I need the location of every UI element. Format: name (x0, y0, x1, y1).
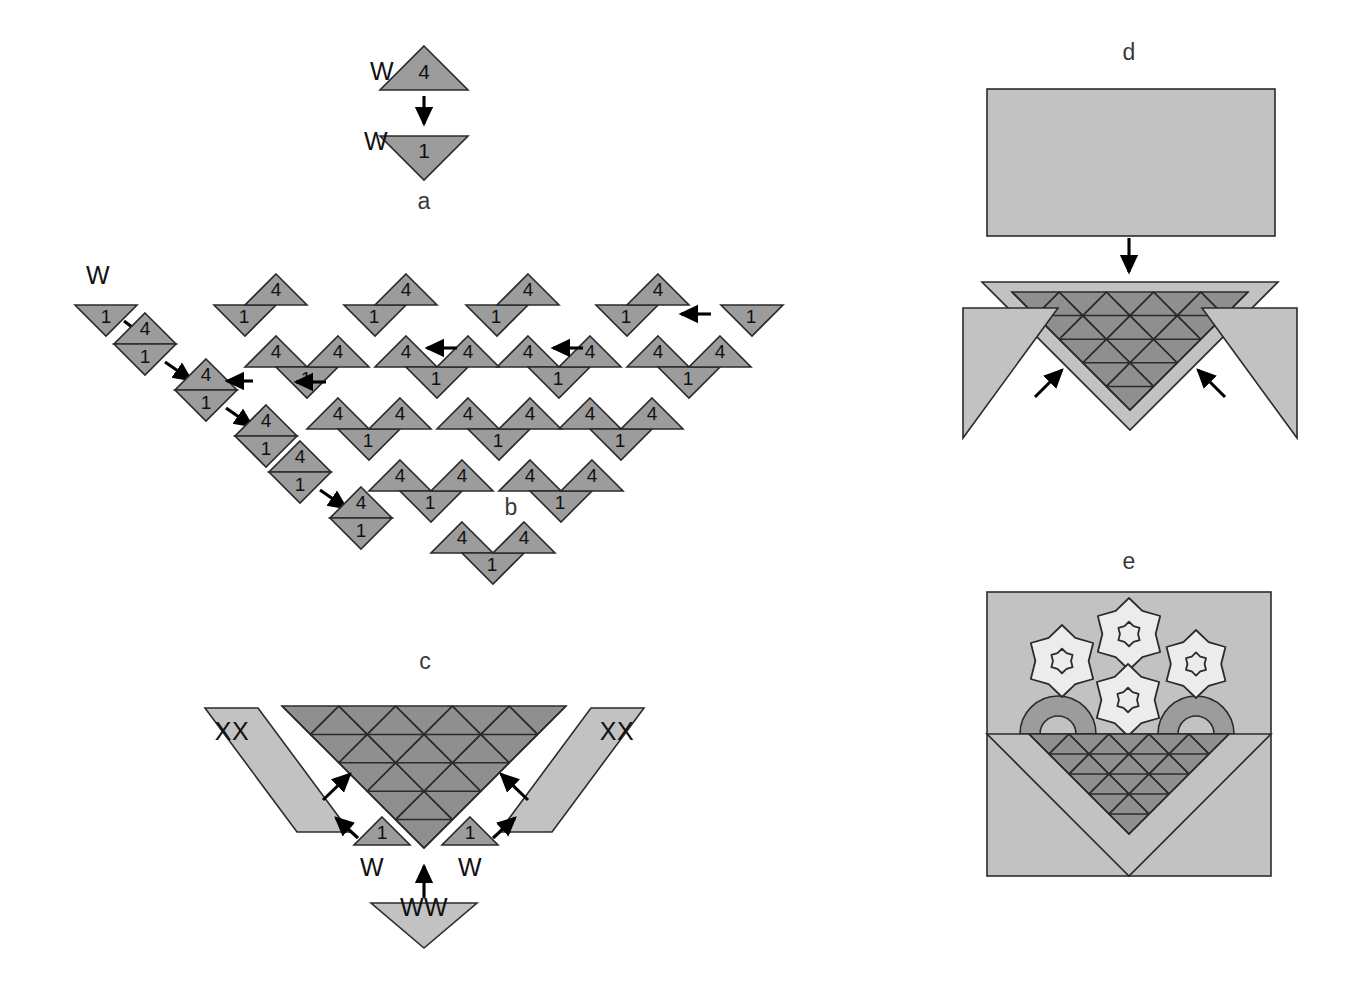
panel-b-strip-mid-piece-4-label: 4 (647, 403, 658, 424)
panel-b-strip-mid-piece-4-label: 4 (457, 465, 468, 486)
panel-b-unit-piece-1-label: 1 (140, 346, 151, 367)
panel-b-strip-piece-4-label: 4 (525, 465, 536, 486)
panel-d-arrow-inward (1198, 370, 1225, 397)
panel-b-strip-piece-1-label: 1 (493, 430, 504, 451)
panel-b-seed-piece-label: 1 (101, 306, 112, 327)
panel-b-strip-piece-4-label: 4 (333, 403, 344, 424)
panel-b-unit-piece-4-label: 4 (201, 364, 212, 385)
panel-b-unit-piece-4-label: 4 (295, 446, 306, 467)
panel-b-strip-piece-1-label: 1 (487, 554, 498, 575)
panel-d-arrow-inward (1035, 370, 1062, 397)
panel-b-strip-piece-1-label: 1 (363, 430, 374, 451)
panel-b-strip-piece-1-label: 1 (301, 368, 312, 389)
panel-b-strip-piece-1-label: 1 (621, 306, 632, 327)
panel-b-strip-mid-piece-4-label: 4 (587, 465, 598, 486)
panel-b-strip-piece-1-label: 1 (683, 368, 694, 389)
panel-label-c: c (419, 648, 431, 674)
panel-b-strip-mid-piece-4-label: 4 (585, 341, 596, 362)
panel-a-fabric-bottom-label: W (364, 127, 388, 155)
panel-b-unit-piece-4-label: 4 (261, 410, 272, 431)
panel-b-strip-head-piece-4-label: 4 (271, 279, 282, 300)
panel-label-a: a (418, 188, 431, 214)
panel-b-unit-piece-4-label: 4 (356, 492, 367, 513)
panel-b-strip-piece-1-label: 1 (369, 306, 380, 327)
panel-b-unit-piece-1-label: 1 (261, 438, 272, 459)
panel-b-unit-piece-4-label: 4 (140, 318, 151, 339)
panel-c-small-left-fabric-label: W (360, 853, 384, 881)
panel-b-fabric-label: W (86, 261, 110, 289)
panel-b-unit-piece-1-label: 1 (356, 520, 367, 541)
panel-b-strip-mid-piece-4-label: 4 (715, 341, 726, 362)
panel-b-strip-piece-4-label: 4 (395, 465, 406, 486)
panel-b-strip-piece-1-label: 1 (431, 368, 442, 389)
panel-a-piece-1-label: 1 (418, 139, 430, 162)
panel-b-strip-piece-1-label: 1 (553, 368, 564, 389)
panel-a: 4W1W (364, 46, 468, 180)
panel-b-strip-mid-piece-4-label: 4 (395, 403, 406, 424)
panel-b-strip-piece-4-label: 4 (653, 341, 664, 362)
panel-d-right-corner-triangle (1202, 308, 1297, 438)
panel-b-strip-piece-1-label: 1 (239, 306, 250, 327)
panel-c-small-right-fabric-label: W (458, 853, 482, 881)
panel-label-e: e (1123, 548, 1136, 574)
panel-c-small-right-piece-label: 1 (465, 822, 476, 843)
panel-a-piece-4-label: 4 (418, 60, 430, 83)
panel-b-strip-piece-1-label: 1 (555, 492, 566, 513)
panel-b-strip-piece-1-label: 1 (746, 306, 757, 327)
panel-b-strip-piece-4-label: 4 (463, 403, 474, 424)
panel-b-strip-piece-4-label: 4 (401, 341, 412, 362)
panel-b-strip-piece-1-label: 1 (425, 492, 436, 513)
panel-c-arrow-right-strip (501, 774, 528, 800)
panel-b-strip-mid-piece-4-label: 4 (463, 341, 474, 362)
panel-b-strip-head-piece-4-label: 4 (401, 279, 412, 300)
quilt-construction-diagram: 4W1W 1W414141414111441414414414144144144… (0, 0, 1348, 982)
panel-c-arrow-left-strip (323, 774, 350, 800)
panel-d-fabric-rectangle (987, 89, 1275, 236)
figure-root: 4W1W 1W414141414111441414414414144144144… (0, 0, 1348, 982)
panel-c-small-left-piece-label: 1 (377, 822, 388, 843)
panel-c: XXXX1W1WWW (205, 706, 644, 948)
panel-label-b: b (505, 494, 518, 520)
panel-b-strip-piece-4-label: 4 (523, 341, 534, 362)
panel-b-strip-piece-4-label: 4 (457, 527, 468, 548)
panel-label-d: d (1123, 39, 1136, 65)
panel-a-fabric-top-label: W (370, 57, 394, 85)
panel-b-strip-head-piece-4-label: 4 (523, 279, 534, 300)
panel-b-strip-mid-piece-4-label: 4 (525, 403, 536, 424)
panel-e (987, 592, 1271, 876)
panel-b-strip-head-piece-4-label: 4 (653, 279, 664, 300)
panel-b-strip-piece-1-label: 1 (491, 306, 502, 327)
panel-d (963, 89, 1297, 438)
panel-b-unit-piece-1-label: 1 (201, 392, 212, 413)
panel-b-strip-mid-piece-4-label: 4 (519, 527, 530, 548)
panel-c-right-strip-label: XX (600, 717, 634, 745)
panel-b-strip-piece-4-label: 4 (585, 403, 596, 424)
panel-b-strip-mid-piece-4-label: 4 (333, 341, 344, 362)
panel-b-strip-piece-1-label: 1 (615, 430, 626, 451)
panel-d-left-corner-triangle (963, 308, 1058, 438)
panel-b-unit-piece-1-label: 1 (295, 474, 306, 495)
panel-c-left-strip-label: XX (215, 717, 249, 745)
panel-b-strip-piece-4-label: 4 (271, 341, 282, 362)
panel-b: 1W41414141411144141441441414414414414144… (75, 261, 783, 584)
